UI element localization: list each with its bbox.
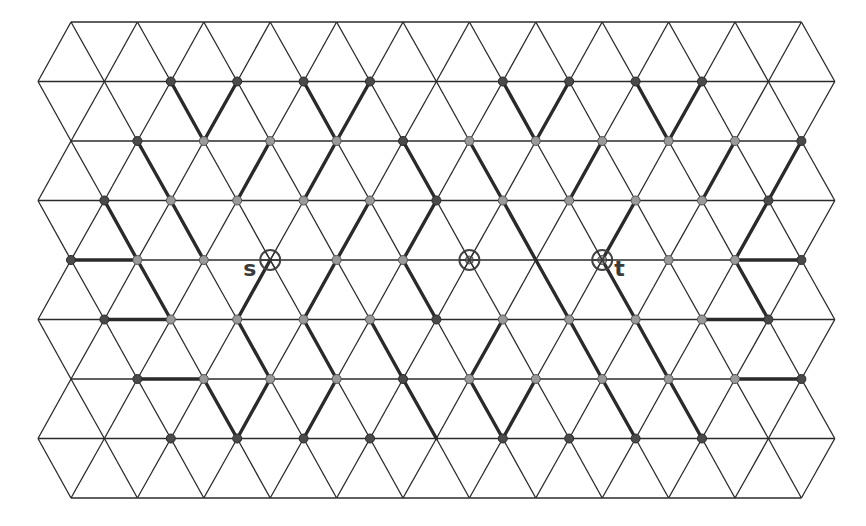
lattice-edge [801, 260, 834, 320]
vertex-dot-light [233, 315, 242, 324]
highlighted-edge [503, 82, 536, 142]
vertex-dot-light [366, 196, 375, 205]
lattice-edge [204, 201, 237, 261]
lattice-edge [204, 141, 237, 201]
lattice-edge [801, 379, 834, 439]
vertex-dot-light [698, 196, 707, 205]
lattice-edge [370, 260, 403, 320]
lattice-edge [71, 379, 104, 439]
highlighted-edge [569, 141, 602, 201]
lattice-edge [436, 141, 469, 201]
lattice-edge [801, 320, 834, 380]
lattice-edge [304, 439, 337, 499]
highlighted-edge [536, 260, 569, 320]
vertex-dot-light [631, 196, 640, 205]
lattice-edge [536, 141, 569, 201]
lattice-edge [137, 439, 170, 499]
lattice-edge [636, 22, 669, 82]
lattice-edge [171, 141, 204, 201]
lattice-edge [536, 22, 569, 82]
lattice-edge [503, 260, 536, 320]
vertex-dot-dark [631, 434, 640, 443]
lattice-edge [137, 320, 170, 380]
highlighted-edge [204, 379, 237, 439]
lattice-edge [735, 379, 768, 439]
lattice-edge [71, 320, 104, 380]
vertex-dot-light [332, 375, 341, 384]
highlighted-edge [403, 260, 436, 320]
vertex-dot-dark [299, 77, 308, 86]
lattice-edge [204, 22, 237, 82]
lattice-edge [768, 379, 801, 439]
lattice-edge [602, 141, 635, 201]
lattice-edge [304, 201, 337, 261]
highlighted-edge [503, 201, 536, 261]
highlighted-edge [304, 141, 337, 201]
lattice-edge [768, 201, 801, 261]
lattice-edge [602, 320, 635, 380]
lattice-edge [204, 439, 237, 499]
lattice-edge [469, 439, 502, 499]
vertex-dot-light [266, 137, 275, 146]
vertex-dot-dark [166, 434, 175, 443]
vertex-dot-light [598, 137, 607, 146]
lattice-edge [270, 379, 303, 439]
lattice-edge [337, 439, 370, 499]
vertex-dot-dark [432, 315, 441, 324]
lattice-edge [702, 22, 735, 82]
lattice-edge [702, 82, 735, 142]
lattice-edge [38, 439, 71, 499]
lattice-edge [503, 439, 536, 499]
vertex-dot-dark [166, 77, 175, 86]
lattice-edge [403, 320, 436, 380]
vertex-dot-light [399, 256, 408, 265]
vertex-dot-light [233, 196, 242, 205]
vertex-dot-light [332, 256, 341, 265]
highlighted-edge [370, 320, 403, 380]
marker-center-icon [459, 250, 479, 270]
lattice-edge [370, 22, 403, 82]
lattice-edge [768, 320, 801, 380]
vertex-dot-light [366, 315, 375, 324]
source-label-s: s [243, 256, 256, 281]
lattice-edges [38, 22, 835, 498]
lattice-edge [237, 439, 270, 499]
lattice-edge [801, 439, 834, 499]
lattice-edge [669, 439, 702, 499]
lattice-edge [636, 141, 669, 201]
vertex-dot-light [498, 196, 507, 205]
highlighted-edge [237, 141, 270, 201]
lattice-edge [569, 22, 602, 82]
highlighted-edge [237, 320, 270, 380]
highlighted-edge [137, 260, 170, 320]
lattice-edge [801, 22, 834, 82]
vertex-dot-dark [233, 434, 242, 443]
lattice-edge [337, 141, 370, 201]
lattice-edge [204, 260, 237, 320]
highlighted-edge [137, 141, 170, 201]
lattice-edge [38, 260, 71, 320]
lattice-edge [137, 82, 170, 142]
lattice-edge [436, 22, 469, 82]
vertex-dot-light [199, 375, 208, 384]
highlighted-edge [469, 141, 502, 201]
highlighted-edge [768, 141, 801, 201]
vertex-dot-dark [764, 196, 773, 205]
highlighted-edge [403, 201, 436, 261]
marker-t-icon [592, 250, 612, 270]
lattice-edge [536, 379, 569, 439]
vertex-dot-light [332, 137, 341, 146]
vertex-dot-dark [698, 77, 707, 86]
lattice-edge [636, 201, 669, 261]
lattice-edge [403, 439, 436, 499]
lattice-edge [469, 82, 502, 142]
lattice-edge [735, 141, 768, 201]
lattice-edge [503, 22, 536, 82]
lattice-edge [702, 320, 735, 380]
highlighted-edge [304, 379, 337, 439]
vertex-dot-light [731, 256, 740, 265]
lattice-edge [735, 320, 768, 380]
lattice-edge [569, 379, 602, 439]
lattice-edge [337, 22, 370, 82]
vertex-dot-light [664, 256, 673, 265]
